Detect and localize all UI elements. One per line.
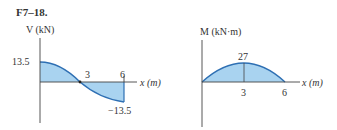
moment-label-peak: 27 xyxy=(238,51,248,62)
diagrams-canvas: F7–18. V (kN) 13.5 3 6 −13.5 x (m) M (kN… xyxy=(0,0,337,130)
shear-zero-point xyxy=(79,81,82,84)
shear-x-axis-label: x (m) xyxy=(139,77,161,89)
shear-y-axis-label: V (kN) xyxy=(26,24,54,36)
moment-y-axis-label: M (kN·m) xyxy=(200,26,241,38)
moment-label-6: 6 xyxy=(282,87,287,98)
moment-label-3: 3 xyxy=(241,87,246,98)
figure-label: F7–18. xyxy=(16,6,48,18)
shear-diagram: V (kN) 13.5 3 6 −13.5 x (m) xyxy=(12,24,161,123)
shear-label-min: −13.5 xyxy=(108,105,131,116)
shear-label-3: 3 xyxy=(85,69,90,80)
moment-diagram: M (kN·m) 27 3 6 x (m) xyxy=(200,26,323,127)
shear-label-6: 6 xyxy=(120,69,125,80)
moment-x-axis-label: x (m) xyxy=(301,77,323,89)
shear-label-max: 13.5 xyxy=(12,56,30,67)
